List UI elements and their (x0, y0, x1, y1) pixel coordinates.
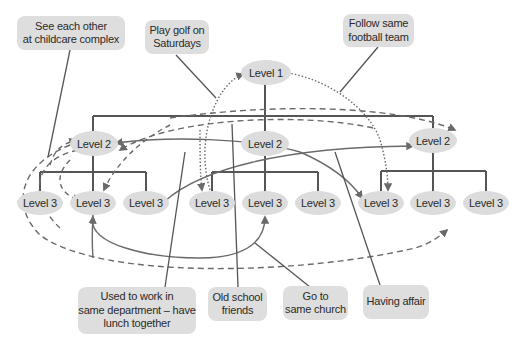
callout-affair: Having affair (363, 285, 429, 319)
level2-node-center: Level 2 (241, 131, 289, 156)
callout-childcare: See each other at childcare complex (17, 16, 125, 50)
level3-node-9: Level 3 (463, 191, 509, 215)
level3-node-5: Level 3 (242, 191, 288, 215)
callout-school: Old school friends (208, 287, 267, 321)
level3-node-4: Level 3 (189, 191, 235, 215)
callout-football: Follow same football team (343, 14, 414, 47)
level3-node-7: Level 3 (358, 191, 404, 215)
level1-node: Level 1 (241, 60, 291, 85)
callout-department: Used to work in same department – have l… (78, 287, 196, 334)
callout-leaders (48, 47, 380, 287)
callout-golf: Play golf on Saturdays (145, 20, 209, 54)
level3-node-6: Level 3 (295, 191, 341, 215)
level3-node-2: Level 3 (70, 191, 116, 215)
callout-church: Go to same church (283, 286, 348, 320)
level3-node-8: Level 3 (410, 191, 456, 215)
level2-node-right: Level 2 (409, 128, 457, 153)
level2-node-left: Level 2 (70, 131, 118, 156)
level3-node-1: Level 3 (17, 191, 63, 215)
level3-node-3: Level 3 (123, 191, 169, 215)
